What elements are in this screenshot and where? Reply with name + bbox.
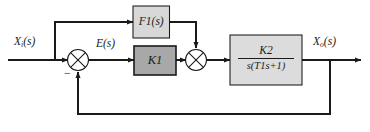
block-diagram: Xi(s) E(s) Xo(s) − F1(s) K1 K2 s(T1s+1) — [0, 0, 370, 132]
plant-denominator: s(T1s+1) — [211, 59, 321, 72]
plant-transfer-function: K2 s(T1s+1) — [211, 44, 321, 72]
feedforward-junction — [186, 50, 207, 71]
error-signal-label: E(s) — [96, 37, 115, 49]
gain-block-label: K1 — [134, 53, 176, 68]
plant-numerator: K2 — [211, 44, 321, 57]
feedforward-branch-line — [55, 22, 133, 60]
feedforward-block-label: F1(s) — [133, 15, 170, 27]
feedback-minus-sign: − — [64, 66, 71, 81]
input-signal-label: Xi(s) — [14, 35, 35, 49]
feedforward-to-junction-line — [169, 22, 196, 48]
